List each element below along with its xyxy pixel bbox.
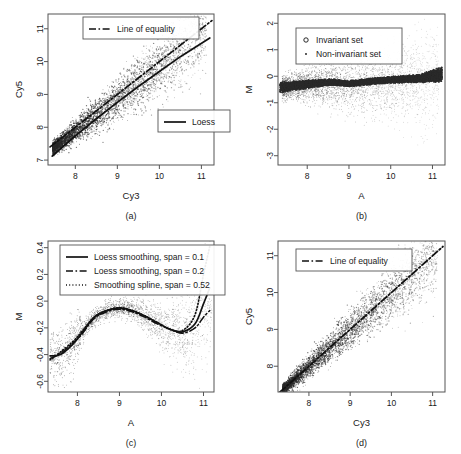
- legend-label: Smoothing spline, span = 0.52: [94, 280, 210, 290]
- y-tick-label: 10: [265, 288, 275, 298]
- legend: Loess smoothing, span = 0.1Loess smoothi…: [60, 245, 225, 295]
- y-tick-label: 2: [265, 21, 275, 26]
- x-tick-label: 9: [347, 171, 352, 181]
- x-tick-label: 9: [115, 171, 120, 181]
- y-tick-label: 11: [265, 251, 275, 260]
- y-tick-label: -0.4: [35, 347, 45, 362]
- x-tick-label: 11: [428, 398, 437, 408]
- y-tick-label: -0.6: [35, 374, 45, 389]
- y-tick-label: 11: [35, 24, 45, 33]
- y-tick-label: 8: [35, 125, 45, 130]
- x-tick-label: 10: [155, 171, 165, 181]
- x-tick-label: 9: [348, 398, 353, 408]
- x-axis-title: Cy3: [123, 190, 140, 201]
- y-axis-title: M: [13, 312, 24, 320]
- legend: Line of equality: [83, 17, 199, 39]
- y-axis-title: Cy5: [243, 308, 254, 325]
- panel-caption: (b): [356, 211, 367, 221]
- x-tick-label: 10: [387, 398, 397, 408]
- x-tick-label: 8: [307, 398, 312, 408]
- x-tick-label: 8: [73, 171, 78, 181]
- legend-label: Loess smoothing, span = 0.1: [94, 252, 204, 262]
- x-axis-title: A: [358, 190, 365, 201]
- y-tick-label: 10: [35, 57, 45, 67]
- y-tick-label: -1: [265, 99, 275, 107]
- legend-label: Line of equality: [330, 256, 389, 266]
- legend-label: Loess smoothing, span = 0.2: [94, 266, 204, 276]
- x-tick-label: 10: [386, 171, 396, 181]
- x-tick-label: 10: [157, 398, 167, 408]
- legend: Line of equality: [296, 249, 412, 271]
- legend: Loess: [158, 110, 230, 132]
- x-tick-label: 11: [199, 398, 208, 408]
- y-tick-label: 0.2: [35, 268, 45, 280]
- x-tick-label: 9: [117, 398, 122, 408]
- y-tick-label: -2: [265, 125, 275, 133]
- y-tick-label: -0.2: [35, 320, 45, 335]
- legend-label: Non-invariant set: [316, 49, 382, 59]
- y-tick-label: 7: [35, 157, 45, 162]
- plot-panel-b: 891011-3-2-1012AM(b)Invariant setNon-inv…: [230, 0, 461, 227]
- legend-label: Line of equality: [117, 24, 176, 34]
- plot-panel-c: 891011-0.6-0.4-0.20.00.20.4AM(c)Loess sm…: [0, 227, 230, 454]
- panel-caption: (a): [126, 211, 137, 221]
- y-tick-label: 0.0: [35, 295, 45, 307]
- figure-panel-grid: 8910117891011Cy3Cy5(a)Line of equalityLo…: [0, 0, 461, 454]
- panel-caption: (c): [126, 438, 137, 448]
- y-tick-label: 8: [265, 364, 275, 369]
- y-axis-title: Cy5: [13, 81, 24, 98]
- y-axis-title: M: [243, 85, 254, 93]
- x-tick-label: 11: [197, 171, 206, 181]
- x-tick-label: 11: [428, 171, 437, 181]
- y-tick-label: 0: [265, 74, 275, 79]
- y-tick-label: 0.4: [35, 242, 45, 254]
- y-tick-label: 9: [265, 327, 275, 332]
- plot-panel-a: 8910117891011Cy3Cy5(a)Line of equalityLo…: [0, 0, 230, 227]
- legend: Invariant setNon-invariant set: [296, 28, 402, 64]
- panel-caption: (d): [356, 438, 367, 448]
- x-axis-title: Cy3: [353, 417, 370, 428]
- x-tick-label: 8: [75, 398, 80, 408]
- y-tick-label: 9: [35, 92, 45, 97]
- y-tick-label: -3: [265, 152, 275, 160]
- x-tick-label: 8: [305, 171, 310, 181]
- y-tick-label: 1: [265, 47, 275, 52]
- plot-panel-d: 891011891011Cy3Cy5(d)Line of equality: [230, 227, 461, 454]
- legend-label: Loess: [192, 117, 215, 127]
- legend-label: Invariant set: [316, 35, 363, 45]
- x-axis-title: A: [128, 417, 135, 428]
